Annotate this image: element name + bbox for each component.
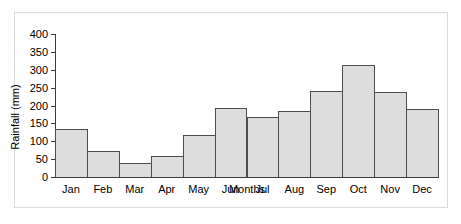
bar-may[interactable] <box>183 135 216 177</box>
plot-area: 050100150200250300350400 JanFebMarAprMay… <box>55 34 438 177</box>
bar-nov[interactable] <box>374 92 407 177</box>
bar-dec[interactable] <box>406 109 439 177</box>
y-tick-label: 300 <box>30 64 48 76</box>
y-tick-mark <box>51 52 55 53</box>
bar-feb[interactable] <box>87 151 120 177</box>
bar-aug[interactable] <box>278 111 311 177</box>
screenshot-root: Rainfall (mm) 050100150200250300350400 J… <box>0 0 461 224</box>
y-tick-label: 50 <box>36 153 48 165</box>
y-tick-mark <box>51 34 55 35</box>
y-tick-mark <box>51 88 55 89</box>
y-axis-label: Rainfall (mm) <box>9 57 23 177</box>
y-tick-label: 150 <box>30 117 48 129</box>
y-tick-mark <box>51 106 55 107</box>
bar-jul[interactable] <box>247 117 280 177</box>
y-tick-label: 250 <box>30 82 48 94</box>
bar-oct[interactable] <box>342 65 375 177</box>
y-tick-mark <box>51 70 55 71</box>
y-tick-label: 0 <box>42 171 48 183</box>
y-tick-label: 400 <box>30 28 48 40</box>
y-tick-mark <box>51 123 55 124</box>
bar-apr[interactable] <box>151 156 184 177</box>
x-axis-label: Months <box>55 183 439 195</box>
y-tick-mark <box>51 177 55 178</box>
bar-jan[interactable] <box>55 129 88 177</box>
chart-figure-frame: Rainfall (mm) 050100150200250300350400 J… <box>14 12 448 208</box>
bar-sep[interactable] <box>310 91 343 178</box>
y-tick-label: 350 <box>30 46 48 58</box>
bar-mar[interactable] <box>119 163 152 177</box>
x-axis-line <box>55 177 439 178</box>
y-tick-label: 200 <box>30 100 48 112</box>
bar-jun[interactable] <box>215 108 248 177</box>
y-tick-label: 100 <box>30 135 48 147</box>
